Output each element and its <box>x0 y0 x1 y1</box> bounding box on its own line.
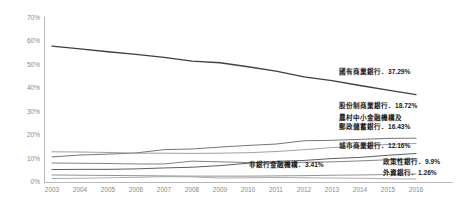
line-chart: 70% 60% 50% 40% 30% 20% 10% 0% 2003 2004… <box>0 0 467 205</box>
annotation-rural-postal-line1: 農村中小金融機構及 <box>339 113 402 122</box>
series-line <box>52 154 416 170</box>
annotation-policy-banks: 政策性銀行．9.9% <box>383 157 440 166</box>
annotation-foreign-banks: 外資銀行．1.26% <box>383 168 437 177</box>
annotation-state-owned-banks: 國有商業銀行．37.29% <box>339 67 410 76</box>
series-line <box>52 159 416 164</box>
series-line <box>52 177 416 179</box>
annotation-nonbank-financial: 非銀行金融機構．3.41% <box>249 160 324 169</box>
series-line <box>52 174 416 176</box>
annotation-joint-stock-banks: 股份制商業銀行．18.72% <box>339 101 417 110</box>
annotation-city-commercial-banks: 城市商業銀行．12.16% <box>339 141 410 150</box>
annotation-rural-postal-line2: 郵政儲蓄銀行．16.43% <box>339 122 410 131</box>
